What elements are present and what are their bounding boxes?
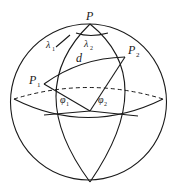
label-lambda2-sub: 2 — [90, 45, 93, 51]
label-phi1-sub: 1 — [66, 101, 69, 107]
label-lambda1-sub: 1 — [52, 46, 55, 52]
label-lambda1: λ — [45, 39, 51, 50]
label-p2-sub: 2 — [136, 51, 140, 59]
label-p1: P — [28, 73, 37, 87]
sphere-outline — [11, 24, 167, 180]
radius-p2 — [90, 57, 125, 111]
sphere-diagram: P λ 1 λ 2 d P 2 P 1 φ 1 φ 2 — [0, 0, 177, 186]
lambda1-arc — [56, 35, 70, 47]
label-p2: P — [127, 43, 136, 57]
equator-front — [14, 99, 163, 118]
label-pole-p: P — [85, 9, 94, 23]
label-p1-sub: 1 — [37, 81, 41, 89]
label-distance-d: d — [76, 51, 83, 65]
great-circle-arc-d — [44, 57, 125, 84]
label-lambda2: λ — [83, 38, 89, 49]
label-phi2-sub: 2 — [104, 101, 107, 107]
equator-back — [14, 88, 163, 100]
